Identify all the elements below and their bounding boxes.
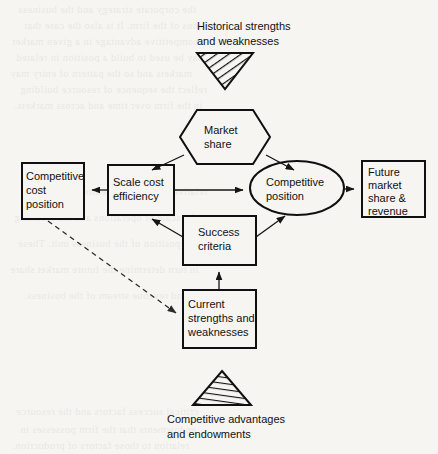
connector-success-criteria-to-scale-cost [152,219,183,237]
competitive-cost-position-line1: Competitive [26,170,84,182]
competitive-advantages-line2: and endowments [167,428,251,440]
competitive-position-line1: Competitive [266,176,324,188]
hatched-up-triangle-icon [193,371,251,405]
current-strengths-line3: weaknesses [187,326,249,338]
future-market-share-line1: Future [368,166,400,178]
competitive-position-ellipse [250,161,344,215]
connector-success-criteria-to-competitive-position [256,216,285,237]
scale-cost-efficiency-line1: Scale cost [113,176,164,188]
node-current-strengths: Current strengths and weaknesses [183,290,256,348]
future-market-share-line3: share & [368,192,407,204]
connector-competitive-cost-position-to-current-strengths [48,221,176,313]
competitive-position-diagram: Historical strengths and weaknesses Mark… [0,0,438,454]
competitive-advantages-caption: Competitive advantages and endowments [167,413,286,440]
node-success-criteria: Success criteria [183,216,256,265]
current-strengths-line2: strengths and [188,312,255,324]
node-market-share: Market share [180,110,270,164]
competitive-advantages-line1: Competitive advantages [167,413,286,425]
market-share-line2: share [204,138,232,150]
node-future-market-share: Future market share & revenue [362,161,425,217]
node-competitive-position: Competitive position [250,161,344,215]
node-scale-cost-efficiency: Scale cost efficiency [108,165,174,215]
success-criteria-line1: Success [198,226,240,238]
hatched-down-triangle-icon [197,53,253,89]
market-share-line1: Market [204,124,238,136]
competitive-cost-position-line2: cost [26,184,46,196]
competitive-position-line2: position [266,190,304,202]
scale-cost-efficiency-line2: efficiency [113,190,159,202]
success-criteria-line2: criteria [198,240,232,252]
future-market-share-line2: market [368,179,402,191]
current-strengths-line1: Current [188,298,225,310]
historical-strengths-line2: and weaknesses [197,35,279,47]
historical-strengths-caption: Historical strengths and weaknesses [197,20,291,47]
future-market-share-line4: revenue [368,205,408,217]
diagram-page: the corporate strategy and the business … [0,0,438,454]
historical-strengths-line1: Historical strengths [197,20,291,32]
competitive-cost-position-line3: position [26,198,64,210]
node-competitive-cost-position: Competitive cost position [22,163,84,219]
market-share-hexagon [180,110,270,164]
